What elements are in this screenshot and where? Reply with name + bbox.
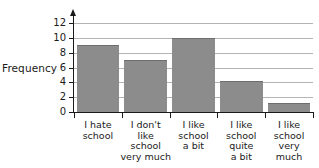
bar-chart: Frequency 024681012 I hate schoolI don't… bbox=[0, 0, 319, 168]
y-axis-tick-label: 6 bbox=[44, 63, 66, 73]
x-axis-category-label: I like school very much bbox=[259, 120, 319, 162]
y-axis-arrow-icon bbox=[70, 9, 76, 16]
bar bbox=[268, 103, 311, 112]
bar bbox=[220, 81, 263, 112]
x-axis-line bbox=[70, 112, 314, 113]
x-axis-tick bbox=[265, 113, 266, 118]
bar bbox=[77, 45, 120, 112]
bar bbox=[124, 60, 167, 112]
y-axis-tick-label: 0 bbox=[44, 107, 66, 117]
y-axis-tick bbox=[69, 38, 74, 39]
gridline bbox=[74, 23, 313, 24]
bar bbox=[172, 38, 215, 112]
y-axis-tick bbox=[69, 68, 74, 69]
y-axis-tick bbox=[69, 97, 74, 98]
y-axis-tick bbox=[69, 82, 74, 83]
x-axis-tick bbox=[74, 113, 75, 118]
y-axis-tick-label: 8 bbox=[44, 48, 66, 58]
x-axis-tick bbox=[313, 113, 314, 118]
y-axis-tick-label: 12 bbox=[44, 18, 66, 28]
y-axis-tick-label: 2 bbox=[44, 92, 66, 102]
plot-area bbox=[74, 23, 313, 112]
x-axis-tick bbox=[122, 113, 123, 118]
y-axis-tick-label: 10 bbox=[44, 33, 66, 43]
x-axis-tick bbox=[217, 113, 218, 118]
y-axis-tick-label: 4 bbox=[44, 77, 66, 87]
y-axis-tick bbox=[69, 53, 74, 54]
x-axis-tick bbox=[170, 113, 171, 118]
y-axis-tick bbox=[69, 23, 74, 24]
